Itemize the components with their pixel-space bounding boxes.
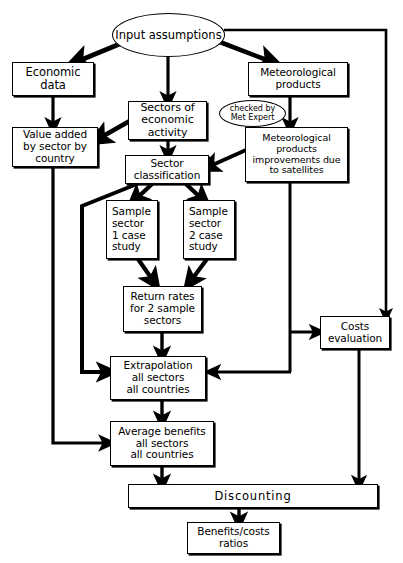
node-sample-sector-2[interactable]: Samplesector2 casestudy — [183, 200, 235, 259]
node-costs-evaluation[interactable]: Costsevaluation — [320, 316, 390, 349]
node-discounting-label: Discounting — [129, 490, 377, 503]
edge-classification-to-sample2 — [186, 184, 203, 200]
node-benefits-costs-ratios[interactable]: Benefits/costsratios — [187, 522, 280, 554]
node-sector-classification-label: Sectorclassification — [126, 158, 208, 182]
node-checked-by-met-expert-label: checked byMet Expert — [230, 105, 276, 123]
node-discounting[interactable]: Discounting — [128, 484, 378, 508]
node-economic-data-label: Economicdata — [13, 66, 93, 92]
node-benefits-costs-ratios-label: Benefits/costsratios — [188, 526, 279, 550]
node-return-rates[interactable]: Return ratesfor 2 samplesectors — [123, 286, 202, 332]
node-sector-classification[interactable]: Sectorclassification — [125, 155, 209, 184]
node-value-added[interactable]: Value addedby sector bycountry — [12, 127, 98, 167]
node-meteorological-products-label: Meteorologicalproducts — [249, 67, 347, 91]
node-sample-sector-2-label: Samplesector2 casestudy — [184, 206, 234, 253]
node-extrapolation[interactable]: Extrapolationall sectorsall countries — [110, 356, 206, 400]
node-average-benefits-label: Average benefitsall sectorsall countries — [111, 426, 213, 461]
node-extrapolation-label: Extrapolationall sectorsall countries — [111, 360, 205, 395]
node-average-benefits[interactable]: Average benefitsall sectorsall countries — [110, 421, 214, 466]
edge-classification-to-sample1 — [135, 184, 152, 200]
node-sectors-of-economic-activity[interactable]: Sectors ofeconomicactivity — [128, 101, 207, 140]
node-sample-sector-1[interactable]: Samplesector1 casestudy — [106, 200, 158, 259]
node-sample-sector-1-label: Samplesector1 casestudy — [107, 206, 157, 253]
node-costs-evaluation-label: Costsevaluation — [321, 321, 389, 345]
node-checked-by-met-expert[interactable]: checked byMet Expert — [219, 100, 286, 127]
node-value-added-label: Value addedby sector bycountry — [13, 129, 97, 164]
node-input-assumptions-label: Input assumptions — [115, 29, 221, 42]
node-sectors-of-economic-activity-label: Sectors ofeconomicactivity — [129, 102, 206, 139]
node-met-products-improvements-label: Meteorologicalproductsimprovements dueto… — [246, 133, 347, 176]
node-return-rates-label: Return ratesfor 2 samplesectors — [124, 291, 201, 326]
edge-sample1-to-returnrates — [138, 259, 154, 282]
node-input-assumptions[interactable]: Input assumptions — [112, 13, 225, 57]
edge-improvements-to-classification — [208, 150, 246, 167]
edge-sample2-to-returnrates — [190, 259, 207, 282]
node-economic-data[interactable]: Economicdata — [12, 62, 94, 96]
flowchart-canvas: Input assumptions Economicdata Sectors o… — [0, 0, 403, 563]
node-met-products-improvements[interactable]: Meteorologicalproductsimprovements dueto… — [245, 127, 348, 182]
node-meteorological-products[interactable]: Meteorologicalproducts — [248, 62, 348, 96]
